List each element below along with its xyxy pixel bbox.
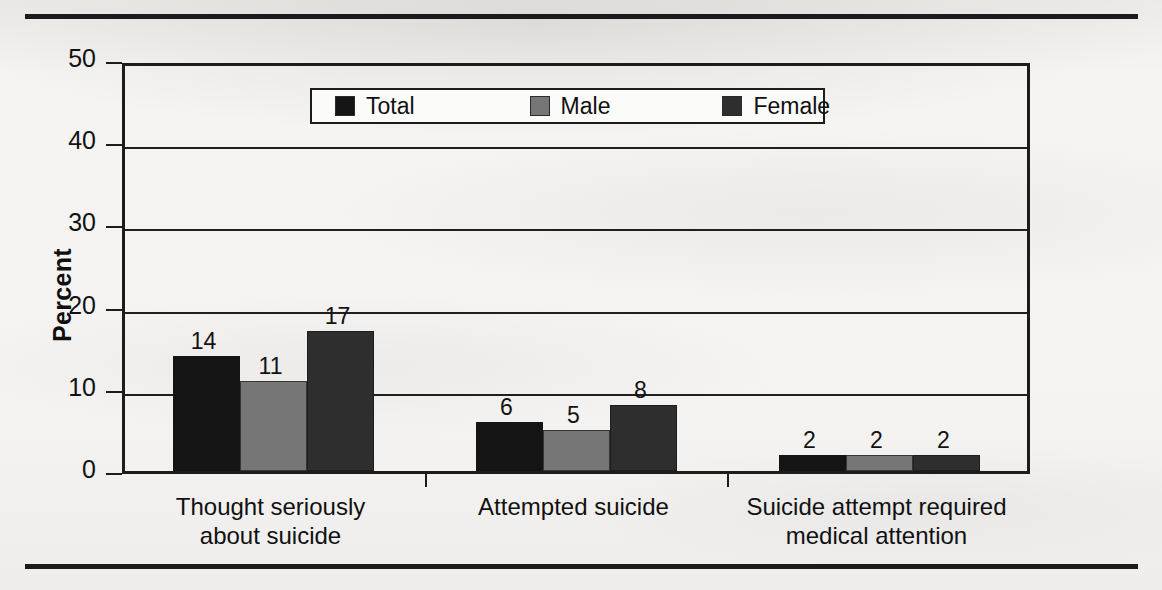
bar-total-1[interactable] xyxy=(173,356,240,471)
legend-label: Total xyxy=(366,93,415,120)
y-tick-40: 40 xyxy=(0,145,122,146)
bar-value-label: 2 xyxy=(870,427,883,454)
y-tick-mark xyxy=(106,226,122,228)
y-tick-30: 30 xyxy=(0,227,122,228)
bottom-horizontal-rule xyxy=(25,564,1138,569)
y-tick-50: 50 xyxy=(0,63,122,64)
y-tick-label: 30 xyxy=(68,210,96,235)
y-tick-label: 50 xyxy=(68,46,96,71)
y-tick-label: 20 xyxy=(68,293,96,318)
chart-legend: TotalMaleFemale xyxy=(310,88,825,124)
bar-value-label: 8 xyxy=(634,377,647,404)
bar-value-label: 2 xyxy=(803,427,816,454)
y-tick-mark xyxy=(106,309,122,311)
bar-female-3[interactable] xyxy=(913,455,980,471)
y-tick-label: 0 xyxy=(82,457,96,482)
bar-value-label: 14 xyxy=(191,328,217,355)
bar-value-label: 17 xyxy=(325,303,351,330)
bar-male-1[interactable] xyxy=(240,381,307,471)
bar-male-2[interactable] xyxy=(543,430,610,471)
bar-total-2[interactable] xyxy=(476,422,543,471)
y-tick-label: 10 xyxy=(68,375,96,400)
legend-swatch-icon xyxy=(530,96,550,116)
y-tick-10: 10 xyxy=(0,392,122,393)
bar-total-3[interactable] xyxy=(779,455,846,471)
bar-chart-figure: Percent 01020304050 TotalMaleFemale Thou… xyxy=(0,0,1162,590)
gridline-40 xyxy=(125,147,1027,149)
legend-swatch-icon xyxy=(335,96,355,116)
legend-item-total[interactable]: Total xyxy=(335,93,415,120)
legend-item-male[interactable]: Male xyxy=(530,93,611,120)
bar-female-2[interactable] xyxy=(610,405,677,471)
x-category-label-3: Suicide attempt required medical attenti… xyxy=(746,492,1006,550)
legend-swatch-icon xyxy=(722,96,742,116)
y-tick-mark xyxy=(106,62,122,64)
y-tick-mark xyxy=(106,391,122,393)
x-category-label-2: Attempted suicide xyxy=(478,492,669,521)
bar-female-1[interactable] xyxy=(307,331,374,471)
bar-value-label: 2 xyxy=(937,427,950,454)
x-category-label-1: Thought seriously about suicide xyxy=(176,492,365,550)
bar-value-label: 11 xyxy=(259,353,283,380)
gridline-20 xyxy=(125,312,1027,314)
bar-male-3[interactable] xyxy=(846,455,913,471)
y-tick-mark xyxy=(106,473,122,475)
gridline-30 xyxy=(125,229,1027,231)
x-axis-tick xyxy=(727,474,729,487)
y-tick-label: 40 xyxy=(68,128,96,153)
legend-item-female[interactable]: Female xyxy=(722,93,830,120)
bar-value-label: 5 xyxy=(567,402,580,429)
y-tick-20: 20 xyxy=(0,310,122,311)
y-tick-mark xyxy=(106,144,122,146)
legend-label: Male xyxy=(561,93,611,120)
x-axis-tick xyxy=(425,474,427,487)
y-tick-0: 0 xyxy=(0,474,122,475)
legend-label: Female xyxy=(753,93,830,120)
top-horizontal-rule xyxy=(25,14,1138,19)
bar-value-label: 6 xyxy=(500,394,513,421)
